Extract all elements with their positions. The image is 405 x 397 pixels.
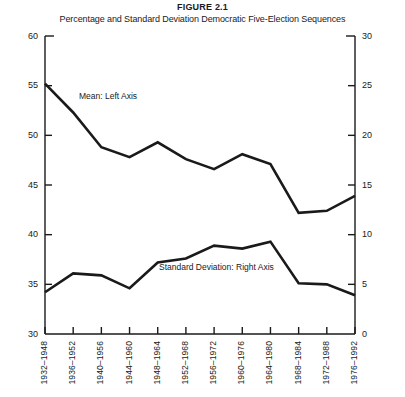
x-axis-tick-label: 1972–1988 bbox=[322, 341, 331, 384]
series-line-mean bbox=[45, 84, 355, 213]
y-axis-left-tick-label: 35 bbox=[16, 280, 38, 289]
y-axis-left-tick-label: 60 bbox=[16, 32, 38, 41]
chart-plot-area bbox=[0, 0, 405, 397]
x-axis-tick-label: 1932–1948 bbox=[40, 341, 49, 384]
y-axis-right-tick-label: 0 bbox=[362, 330, 384, 339]
y-axis-right-tick-label: 30 bbox=[362, 32, 384, 41]
y-axis-right-tick-label: 15 bbox=[362, 181, 384, 190]
y-axis-right-tick-label: 25 bbox=[362, 81, 384, 90]
annotation-mean: Mean: Left Axis bbox=[79, 91, 137, 101]
x-axis-tick-label: 1968–1984 bbox=[294, 341, 303, 384]
y-axis-right-tick-label: 5 bbox=[362, 280, 384, 289]
y-axis-left-tick-label: 55 bbox=[16, 81, 38, 90]
x-axis-tick-label: 1944–1960 bbox=[125, 341, 134, 384]
x-axis-tick-label: 1960–1976 bbox=[237, 341, 246, 384]
y-axis-left-tick-label: 30 bbox=[16, 330, 38, 339]
x-axis-tick-label: 1936–1952 bbox=[68, 341, 77, 384]
y-axis-right-tick-label: 20 bbox=[362, 131, 384, 140]
x-axis-tick-label: 1948–1964 bbox=[153, 341, 162, 384]
y-axis-right-tick-label: 10 bbox=[362, 230, 384, 239]
x-axis-tick-label: 1964–1980 bbox=[265, 341, 274, 384]
y-axis-left-tick-label: 45 bbox=[16, 181, 38, 190]
y-axis-left-tick-label: 40 bbox=[16, 230, 38, 239]
annotation-standard-deviation: Standard Deviation: Right Axis bbox=[159, 262, 274, 272]
x-axis-tick-label: 1940–1956 bbox=[96, 341, 105, 384]
y-axis-left-tick-label: 50 bbox=[16, 131, 38, 140]
x-axis-tick-label: 1952–1968 bbox=[181, 341, 190, 384]
figure-container: FIGURE 2.1 Percentage and Standard Devia… bbox=[0, 0, 405, 397]
x-axis-tick-label: 1976–1992 bbox=[350, 341, 359, 384]
x-axis-tick-label: 1956–1972 bbox=[209, 341, 218, 384]
